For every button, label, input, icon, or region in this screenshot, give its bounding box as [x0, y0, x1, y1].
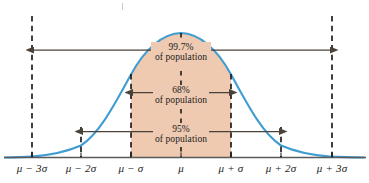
axis-label-plus-1-sigma: μ + σ	[219, 163, 244, 175]
annotation-99-7-percent-value: 99.7%	[155, 43, 207, 53]
axis-label-plus-2-sigma: μ + 2σ	[266, 163, 297, 175]
annotation-68-percent-value: 68%	[155, 86, 207, 96]
axis-label-minus-2-sigma: μ − 2σ	[66, 163, 97, 175]
annotation-99-7-percent: 99.7% of population	[155, 43, 207, 63]
annotation-95-percent-value: 95%	[155, 125, 207, 135]
scan-artifact-mark	[122, 3, 123, 10]
axis-label-minus-3-sigma: μ − 3σ	[17, 163, 48, 175]
axis-label-mean: μ	[178, 163, 184, 175]
annotation-68-percent-caption: of population	[155, 96, 207, 106]
axis-label-minus-1-sigma: μ − σ	[119, 163, 144, 175]
annotation-95-percent: 95% of population	[155, 125, 207, 145]
annotation-68-percent: 68% of population	[155, 86, 207, 106]
normal-distribution-figure: 99.7% of population 68% of population 95…	[0, 0, 369, 183]
annotation-95-percent-caption: of population	[155, 135, 207, 145]
annotation-99-7-percent-caption: of population	[155, 53, 207, 63]
axis-label-plus-3-sigma: μ + 3σ	[317, 163, 348, 175]
